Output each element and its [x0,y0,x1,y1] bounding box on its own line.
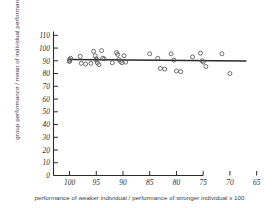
x-tick-label-80: 80 [173,178,181,187]
y-axis-label: group performance / mean of individual p… [13,0,25,143]
y-tick-label-80: 80 [43,69,51,78]
data-point [110,61,114,65]
data-point [89,61,93,65]
x-tick-label-100: 100 [64,178,75,187]
x-tick-label-70: 70 [226,178,234,187]
scatter-plot-figure: 0102030405060708090100110100959085807570… [0,0,279,208]
x-tick-label-75: 75 [199,178,207,187]
data-point [148,52,152,56]
data-point [228,72,232,76]
x-tick-label-95: 95 [93,178,101,187]
data-point [199,51,203,55]
y-tick-label-20: 20 [43,146,51,155]
y-tick-label-50: 50 [43,107,51,116]
y-tick-label-100: 100 [39,44,50,53]
x-axis-label: performance of weaker individual / perfo… [0,194,279,201]
y-tick-label-0: 0 [46,171,50,180]
data-point [122,54,126,58]
data-point [100,49,104,53]
x-tick-label-90: 90 [119,178,127,187]
y-tick-label-10: 10 [43,158,51,167]
x-tick-label-85: 85 [146,178,154,187]
y-tick-label-70: 70 [43,82,51,91]
data-point [220,52,224,56]
plot-canvas: 0102030405060708090100110100959085807570… [0,0,279,208]
data-point [78,54,82,58]
y-tick-label-40: 40 [43,120,51,129]
data-point [92,49,96,53]
data-point [191,55,195,59]
y-tick-label-110: 110 [39,31,50,40]
data-point [84,62,88,66]
x-tick-label-65: 65 [253,178,261,187]
y-tick-label-90: 90 [43,57,51,66]
data-point [204,65,208,69]
data-point [158,66,162,70]
data-point [174,69,178,73]
y-tick-label-30: 30 [42,133,51,142]
y-tick-label-60: 60 [43,95,51,104]
data-point [163,67,167,71]
data-point [179,70,183,74]
data-point [169,52,173,56]
data-point [79,61,83,65]
